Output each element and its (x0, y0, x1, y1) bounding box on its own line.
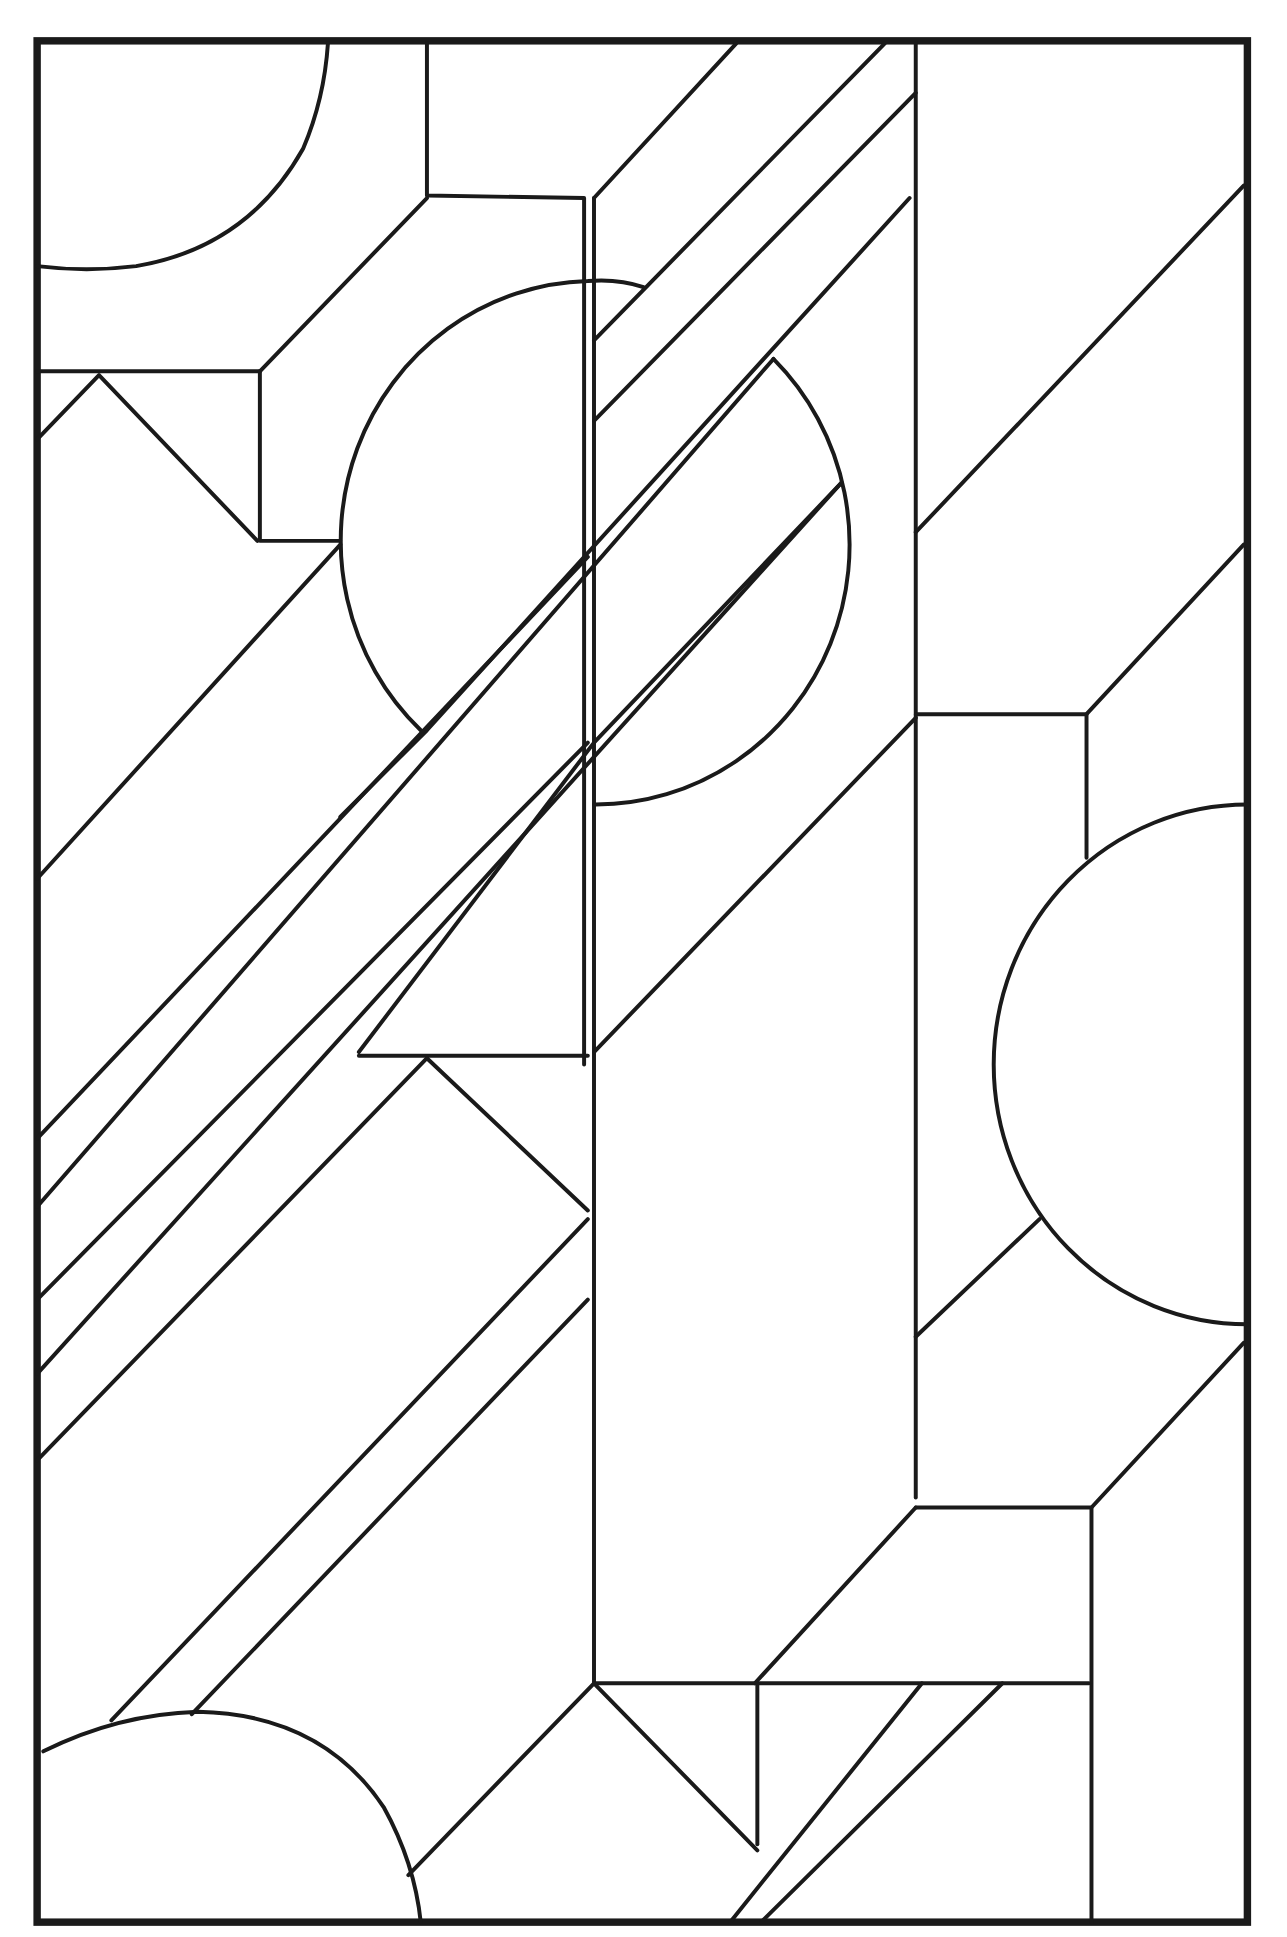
lead-lines (37, 43, 1247, 1922)
outer-frame (37, 41, 1247, 1922)
quarter-circle-top-left (37, 43, 328, 269)
semicircle-right (994, 805, 1248, 1325)
semicircle-bottom-left (43, 1712, 420, 1922)
stained-glass-pattern (0, 0, 1287, 1937)
circle-upper-middle (341, 280, 644, 730)
